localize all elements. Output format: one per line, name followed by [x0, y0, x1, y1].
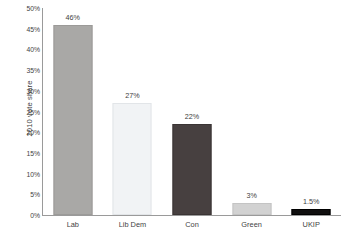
bar-group: 22%	[162, 8, 222, 215]
x-axis-tick-labels: LabLib DemConGreenUKIP	[43, 220, 341, 240]
bar[interactable]	[113, 103, 152, 215]
bar-group: 3%	[222, 8, 282, 215]
y-axis-tick: 35%	[14, 67, 40, 74]
bar[interactable]	[53, 25, 92, 215]
bar[interactable]	[292, 209, 331, 215]
bar[interactable]	[172, 124, 211, 215]
bar-value-label: 22%	[185, 112, 199, 121]
bar-chart: 2010 vote share 0%5%10%15%20%25%30%35%40…	[0, 0, 343, 243]
y-axis-tick: 10%	[14, 170, 40, 177]
y-axis-tick: 25%	[14, 108, 40, 115]
y-axis-tick: 50%	[14, 5, 40, 12]
x-axis-tick: Lib Dem	[103, 220, 163, 229]
bar-group: 27%	[103, 8, 163, 215]
y-axis-tick-labels: 0%5%10%15%20%25%30%35%40%45%50%	[14, 0, 40, 243]
bar-value-label: 1.5%	[303, 197, 319, 206]
bar[interactable]	[232, 203, 271, 215]
bar-value-label: 27%	[125, 91, 139, 100]
y-axis-tick: 15%	[14, 149, 40, 156]
bar-value-label: 46%	[66, 13, 80, 22]
y-axis-tick: 40%	[14, 46, 40, 53]
bar-group: 46%	[43, 8, 103, 215]
x-axis-tick: Green	[222, 220, 282, 229]
x-axis-line	[42, 215, 341, 216]
x-axis-tick: Con	[162, 220, 222, 229]
x-axis-tick: UKIP	[281, 220, 341, 229]
y-axis-tick: 30%	[14, 87, 40, 94]
y-axis-tick: 20%	[14, 129, 40, 136]
y-axis-tick: 5%	[14, 191, 40, 198]
y-axis-tick: 0%	[14, 212, 40, 219]
plot-area: 46%27%22%3%1.5%	[43, 8, 341, 215]
bar-value-label: 3%	[246, 191, 256, 200]
y-axis-tick: 45%	[14, 25, 40, 32]
x-axis-tick: Lab	[43, 220, 103, 229]
bar-group: 1.5%	[281, 8, 341, 215]
